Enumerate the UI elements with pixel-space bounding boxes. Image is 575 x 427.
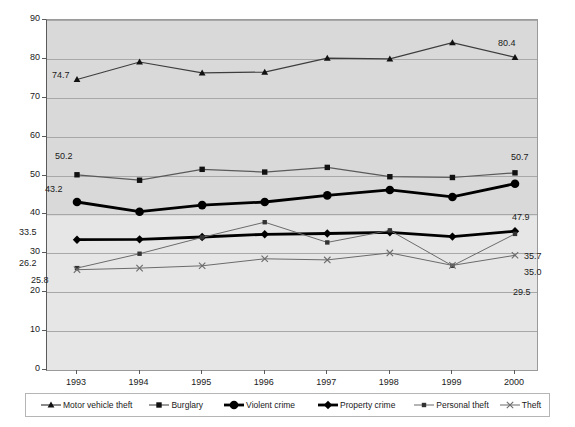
y-axis-tick-label: 20 (6, 285, 40, 295)
series-property-crime (73, 227, 519, 244)
y-axis-tickmark (42, 330, 46, 331)
legend-item-theft[interactable]: Theft (499, 399, 541, 411)
series-violent-crime (73, 179, 520, 216)
y-axis-tick-label: 40 (6, 207, 40, 217)
x-axis-tick-label: 1998 (364, 377, 414, 387)
data-label: 50.2 (55, 151, 73, 161)
x-axis-tickmark (326, 370, 327, 374)
y-axis-tickmark (42, 369, 46, 370)
y-axis-tick-label: 0 (6, 363, 40, 373)
legend-marker-icon (499, 399, 521, 411)
y-axis-tickmark (42, 291, 46, 292)
x-axis-tick-label: 1994 (114, 377, 164, 387)
series-motor-vehicle-theft (74, 39, 519, 82)
legend-item-burglary[interactable]: Burglary (148, 399, 203, 411)
data-label: 26.2 (19, 258, 37, 268)
y-axis-tickmark (42, 19, 46, 20)
data-label: 47.9 (512, 212, 530, 222)
y-axis-tickmark (42, 213, 46, 214)
y-axis-tick-label: 90 (6, 13, 40, 23)
data-label: 74.7 (52, 70, 70, 80)
data-label: 35.7 (524, 251, 542, 261)
x-axis-tickmark (201, 370, 202, 374)
legend-item-motor-vehicle-theft[interactable]: Motor vehicle theft (40, 399, 132, 411)
y-axis-tick-label: 50 (6, 169, 40, 179)
legend-item-personal-theft[interactable]: Personal theft (413, 399, 488, 411)
x-axis-tickmark (76, 370, 77, 374)
chart-legend: Motor vehicle theftBurglaryViolent crime… (25, 393, 550, 417)
y-axis-tick-label: 80 (6, 52, 40, 62)
legend-marker-icon (413, 399, 435, 411)
x-axis-tick-label: 1996 (239, 377, 289, 387)
x-axis-tickmark (451, 370, 452, 374)
y-axis-tick-label: 60 (6, 130, 40, 140)
data-label: 80.4 (498, 38, 516, 48)
y-axis-tickmark (42, 252, 46, 253)
x-axis-tick-label: 2000 (489, 377, 539, 387)
x-axis-tick-label: 1997 (301, 377, 351, 387)
legend-label: Violent crime (245, 400, 295, 410)
legend-marker-icon (317, 399, 339, 411)
data-label: 35.0 (524, 267, 542, 277)
x-axis-tick-label: 1999 (426, 377, 476, 387)
x-axis-tickmark (264, 370, 265, 374)
legend-label: Motor vehicle theft (62, 400, 132, 410)
y-axis-tickmark (42, 58, 46, 59)
plot-area (46, 19, 538, 371)
data-label: 43.2 (45, 184, 63, 194)
y-axis-tickmark (42, 175, 46, 176)
data-label: 25.8 (31, 275, 49, 285)
legend-label: Burglary (170, 400, 203, 410)
legend-marker-icon (148, 399, 170, 411)
series-burglary (74, 165, 517, 183)
data-label: 50.7 (511, 152, 529, 162)
series-personal-theft (75, 220, 517, 270)
x-axis-tickmark (139, 370, 140, 374)
chart-page: 0102030405060708090 19931994199519961997… (0, 0, 575, 427)
y-axis-tickmark (42, 97, 46, 98)
legend-label: Property crime (339, 400, 395, 410)
legend-item-property-crime[interactable]: Property crime (317, 399, 395, 411)
data-label: 29.5 (513, 287, 531, 297)
legend-item-violent-crime[interactable]: Violent crime (223, 399, 295, 411)
x-axis-tick-label: 1995 (176, 377, 226, 387)
legend-marker-icon (40, 399, 62, 411)
gridline (47, 370, 537, 371)
legend-marker-icon (223, 399, 245, 411)
series-layer (47, 20, 537, 370)
legend-label: Theft (521, 400, 541, 410)
legend-label: Personal theft (435, 400, 488, 410)
x-axis-tick-label: 1993 (51, 377, 101, 387)
y-axis-tick-label: 70 (6, 91, 40, 101)
x-axis-tickmark (389, 370, 390, 374)
y-axis-tick-label: 30 (6, 246, 40, 256)
y-axis-tick-label: 10 (6, 324, 40, 334)
data-label: 33.5 (19, 227, 37, 237)
x-axis-tickmark (514, 370, 515, 374)
y-axis-tickmark (42, 136, 46, 137)
